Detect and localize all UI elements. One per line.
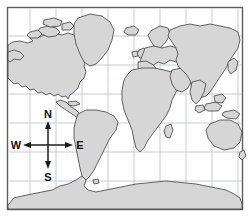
compass-label-north: N bbox=[44, 108, 52, 120]
landmass-south-america bbox=[93, 179, 99, 184]
world-map-svg: N S W E bbox=[0, 0, 250, 217]
compass-label-south: S bbox=[44, 171, 51, 183]
compass-label-west: W bbox=[11, 139, 22, 151]
landmass-new-zealand bbox=[239, 150, 246, 160]
compass-label-east: E bbox=[76, 139, 83, 151]
landmass-british-isles bbox=[132, 51, 138, 57]
world-map-figure: N S W E bbox=[0, 0, 250, 217]
